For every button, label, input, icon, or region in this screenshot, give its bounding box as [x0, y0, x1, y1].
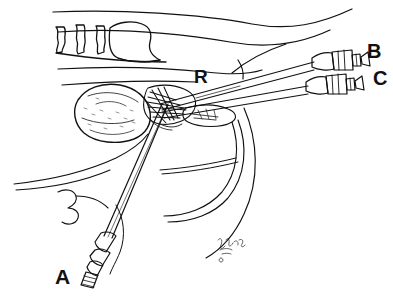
rib-cage	[56, 22, 166, 62]
lower-contours	[160, 158, 238, 174]
organ-mass	[75, 84, 151, 142]
body-contour-upper	[53, 9, 352, 45]
diaphragm-curve	[164, 108, 255, 258]
instrument-b-handle	[312, 50, 370, 70]
line-art-canvas	[0, 0, 393, 298]
label-c: C	[373, 68, 387, 88]
instrument-a-handle	[81, 232, 116, 288]
abdominal-wall-lower-left	[14, 134, 148, 224]
label-r: R	[194, 67, 208, 86]
surgical-illustration-figure: A B C R	[0, 0, 393, 298]
label-b: B	[367, 41, 381, 61]
organ-texture	[84, 98, 135, 129]
fascia-band	[58, 67, 262, 85]
label-a: A	[55, 266, 70, 287]
artist-signature	[218, 239, 245, 262]
instrument-c-handle	[306, 74, 364, 94]
surgical-site-hatching	[144, 85, 196, 124]
